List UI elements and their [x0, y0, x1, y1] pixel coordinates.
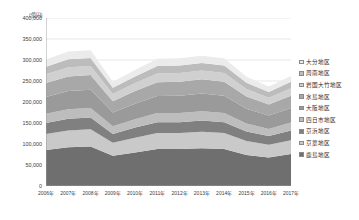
- legend-item-label: 周南地区: [306, 70, 330, 76]
- y-axis-tick-label: 350,000: [2, 36, 42, 42]
- legend-item-label: 京浜地区: [306, 128, 330, 134]
- x-axis-tick-label: 2016年: [257, 190, 281, 196]
- y-axis-tick-label: 200,000: [2, 99, 42, 105]
- x-axis-tick-label: 2012年: [168, 190, 192, 196]
- legend-color-swatch: [299, 60, 304, 65]
- legend-item[interactable]: 京葉地区: [299, 137, 342, 149]
- y-axis-tick-label: 50,000: [2, 162, 42, 168]
- x-axis-tick-label: 2007年: [56, 190, 80, 196]
- x-axis-tick-label: 2010年: [123, 190, 147, 196]
- plot-area: [46, 18, 291, 186]
- x-axis-tick-label: 2006年: [34, 190, 58, 196]
- legend-item-label: 大阪地区: [306, 105, 330, 111]
- legend-color-swatch: [299, 71, 304, 76]
- y-axis-tick-label: 0: [2, 183, 42, 189]
- legend-item-label: 岩国大竹地区: [306, 82, 342, 88]
- legend-item[interactable]: 鹿島地区: [299, 149, 342, 161]
- legend-color-swatch: [299, 117, 304, 122]
- legend-color-swatch: [299, 94, 304, 99]
- x-axis-tick-label: 2014年: [212, 190, 236, 196]
- legend-item[interactable]: 水島地区: [299, 91, 342, 103]
- x-axis-tick-label: 2015年: [234, 190, 258, 196]
- legend-item-label: 京葉地区: [306, 140, 330, 146]
- legend-color-swatch: [299, 141, 304, 146]
- x-axis-tick-label: 2013年: [190, 190, 214, 196]
- y-axis-tick-label: 100,000: [2, 141, 42, 147]
- y-axis-tick-label: 150,000: [2, 120, 42, 126]
- stacked-area-chart: (億円) 050,000100,000150,000200,000250,000…: [0, 0, 359, 220]
- legend-item[interactable]: 岩国大竹地区: [299, 79, 342, 91]
- y-axis-tick-label: 400,000: [2, 15, 42, 21]
- legend-item[interactable]: 周南地区: [299, 68, 342, 80]
- x-axis-tick-label: 2017年: [279, 190, 303, 196]
- legend-color-swatch: [299, 129, 304, 134]
- y-axis-tick-label: 250,000: [2, 78, 42, 84]
- x-axis-tick-label: 2008年: [79, 190, 103, 196]
- legend-item[interactable]: 大分地区: [299, 56, 342, 68]
- x-axis-tick-label: 2009年: [101, 190, 125, 196]
- legend-item[interactable]: 京浜地区: [299, 126, 342, 138]
- legend-item-label: 水島地区: [306, 94, 330, 100]
- legend-item-label: 大分地区: [306, 59, 330, 65]
- legend-item-label: 鹿島地区: [306, 152, 330, 158]
- legend-color-swatch: [299, 152, 304, 157]
- legend-item[interactable]: 四日市地区: [299, 114, 342, 126]
- legend-item[interactable]: 大阪地区: [299, 102, 342, 114]
- x-axis-tick-label: 2011年: [145, 190, 169, 196]
- legend-color-swatch: [299, 106, 304, 111]
- legend-item-label: 四日市地区: [306, 117, 336, 123]
- y-axis-tick-label: 300,000: [2, 57, 42, 63]
- chart-legend: 大分地区周南地区岩国大竹地区水島地区大阪地区四日市地区京浜地区京葉地区鹿島地区: [299, 56, 342, 160]
- legend-color-swatch: [299, 83, 304, 88]
